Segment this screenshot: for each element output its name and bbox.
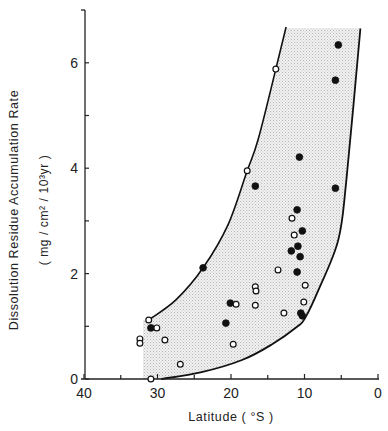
shaded-envelope bbox=[143, 27, 360, 379]
y-tick-label: 6 bbox=[70, 55, 78, 71]
y-axis-units: ( mg / cm² / 10³yr ) bbox=[37, 155, 51, 266]
filled-data-point bbox=[200, 264, 207, 271]
open-data-point bbox=[253, 288, 259, 294]
filled-data-point bbox=[294, 269, 301, 276]
open-data-point bbox=[273, 66, 279, 72]
filled-data-point bbox=[296, 154, 303, 161]
x-tick-label: 0 bbox=[374, 385, 382, 401]
open-data-point bbox=[230, 341, 236, 347]
open-data-point bbox=[252, 302, 258, 308]
filled-data-point bbox=[299, 312, 306, 319]
filled-data-point bbox=[299, 228, 306, 235]
open-data-point bbox=[146, 317, 152, 323]
x-axis-title: Latitude ( °S ) bbox=[188, 410, 274, 424]
y-tick-label: 4 bbox=[70, 160, 78, 176]
x-tick-label: 40 bbox=[76, 385, 92, 401]
filled-data-point bbox=[332, 77, 339, 84]
open-data-point bbox=[137, 340, 143, 346]
filled-data-point bbox=[335, 42, 342, 49]
filled-data-point bbox=[332, 185, 339, 192]
open-data-point bbox=[275, 267, 281, 273]
y-axis-ticks: 0246 bbox=[70, 55, 89, 387]
filled-data-point bbox=[227, 300, 234, 307]
filled-data-point bbox=[252, 183, 259, 190]
envelope-fill bbox=[143, 27, 360, 379]
y-tick-label: 2 bbox=[70, 266, 78, 282]
open-data-point bbox=[148, 376, 154, 382]
open-data-point bbox=[281, 310, 287, 316]
x-axis-ticks: 403020100 bbox=[76, 374, 382, 401]
filled-data-point bbox=[294, 206, 301, 213]
filled-data-point bbox=[148, 325, 155, 332]
x-tick-label: 10 bbox=[297, 385, 313, 401]
filled-data-point bbox=[288, 248, 295, 255]
open-data-point bbox=[244, 168, 250, 174]
open-data-point bbox=[154, 325, 160, 331]
filled-data-point bbox=[295, 243, 302, 250]
open-data-point bbox=[301, 299, 307, 305]
filled-data-point bbox=[297, 253, 304, 260]
y-axis-title: Dissolution Residue Accumulation Rate bbox=[7, 90, 21, 330]
scatter-chart: 0246 403020100 Latitude ( °S ) Dissoluti… bbox=[0, 0, 388, 431]
open-data-point bbox=[233, 301, 239, 307]
open-data-point bbox=[289, 215, 295, 221]
open-data-point bbox=[162, 337, 168, 343]
x-tick-label: 20 bbox=[223, 385, 239, 401]
open-data-point bbox=[302, 282, 308, 288]
filled-data-point bbox=[223, 320, 230, 327]
x-tick-label: 30 bbox=[150, 385, 166, 401]
open-data-point bbox=[291, 232, 297, 238]
open-data-point bbox=[177, 361, 183, 367]
